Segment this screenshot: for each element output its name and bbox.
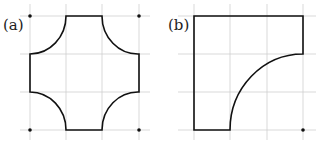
panel-b-corner-dot <box>301 128 305 132</box>
panel-b-shape <box>194 16 303 130</box>
panel-b-grid <box>178 4 316 140</box>
panel-b-label: (b) <box>168 16 189 34</box>
panel-a-grid <box>20 4 150 140</box>
panel-a-shape <box>30 16 139 130</box>
panel-a-corner-dots <box>28 14 141 132</box>
diagram-canvas: (a) (b) <box>0 0 321 142</box>
panel-a-label: (a) <box>3 16 24 34</box>
